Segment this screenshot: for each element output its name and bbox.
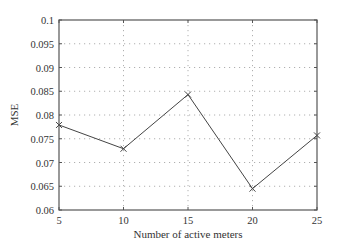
y-tick-label: 0.07	[36, 158, 54, 169]
series-line	[59, 95, 317, 189]
x-tick-label: 20	[247, 215, 258, 226]
y-axis-label: MSE	[8, 103, 20, 126]
line-chart: 0.060.0650.070.0750.080.0850.090.0950.1 …	[0, 0, 340, 250]
x-tick-label: 15	[183, 215, 194, 226]
x-tick-label: 25	[312, 215, 323, 226]
y-tick-label: 0.095	[30, 39, 54, 50]
y-tick-label: 0.08	[36, 110, 54, 121]
y-tick-label: 0.06	[36, 205, 54, 216]
y-tick-label: 0.075	[30, 134, 54, 145]
x-tick-label: 5	[56, 215, 61, 226]
data-series	[56, 92, 320, 192]
y-tick-label: 0.09	[36, 63, 54, 74]
x-axis-ticks: 510152025	[56, 20, 322, 226]
y-tick-label: 0.1	[41, 15, 54, 26]
y-tick-label: 0.085	[30, 86, 54, 97]
grid-lines	[59, 20, 317, 210]
x-axis-label: Number of active meters	[133, 228, 242, 240]
chart-canvas: 0.060.0650.070.0750.080.0850.090.0950.1 …	[0, 0, 340, 250]
x-marker-icon	[185, 92, 191, 98]
x-tick-label: 10	[118, 215, 129, 226]
y-tick-label: 0.065	[30, 181, 54, 192]
